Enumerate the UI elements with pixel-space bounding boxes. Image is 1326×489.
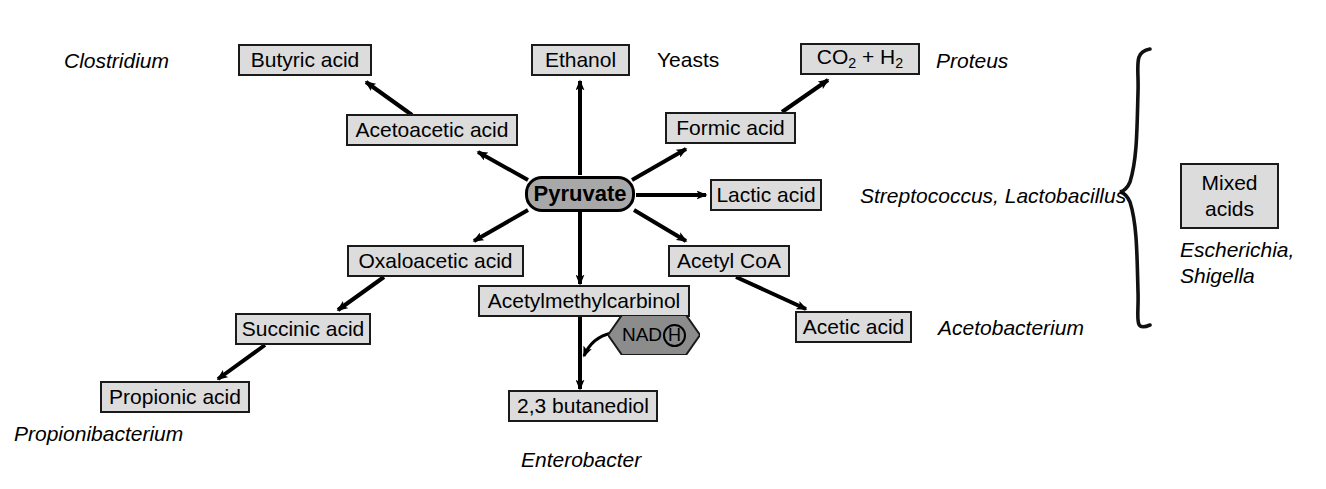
node-ethanol-label: Ethanol bbox=[545, 49, 616, 72]
node-butanediol-label: 2,3 butanediol bbox=[517, 395, 649, 418]
node-succinic-acid[interactable]: Succinic acid bbox=[235, 313, 371, 345]
node-butyric-acid[interactable]: Butyric acid bbox=[238, 44, 372, 76]
node-ethanol[interactable]: Ethanol bbox=[531, 44, 630, 76]
organism-label-yeasts: Yeasts bbox=[657, 48, 719, 72]
nad-label: NAD bbox=[622, 324, 662, 346]
node-acetyl-coa[interactable]: Acetyl CoA bbox=[668, 245, 790, 277]
node-acetoacetic-acid[interactable]: Acetoacetic acid bbox=[346, 114, 518, 146]
arrow-oxaloacetic-to-succinic bbox=[338, 277, 384, 310]
node-pyruvate-label: Pyruvate bbox=[534, 182, 627, 206]
node-formic-acid-label: Formic acid bbox=[676, 117, 785, 140]
organism-label-escherichia: Escherichia, bbox=[1180, 237, 1294, 262]
node-pyruvate[interactable]: Pyruvate bbox=[525, 176, 635, 212]
nadh-cofactor-hexagon[interactable]: NADH bbox=[608, 315, 700, 355]
node-acetic-acid-label: Acetic acid bbox=[803, 316, 905, 339]
arrow-pyruvate-to-formic bbox=[632, 149, 686, 180]
fermentation-pathway-diagram: Butyric acid Acetoacetic acid Ethanol Fo… bbox=[0, 0, 1326, 489]
node-propionic-acid-label: Propionic acid bbox=[109, 386, 241, 409]
organism-label-shigella: Shigella bbox=[1180, 263, 1255, 288]
arrow-succinic-to-propionic bbox=[218, 345, 265, 379]
organism-label-streptococcus-lactobacillus: Streptococcus, Lactobacillus bbox=[860, 183, 1126, 208]
nadh-cofactor-text: NADH bbox=[622, 324, 686, 347]
node-co2-h2-label: CO2 + H2 bbox=[817, 46, 903, 71]
node-acetylmethylcarbinol-label: Acetylmethylcarbinol bbox=[488, 290, 681, 313]
node-lactic-acid[interactable]: Lactic acid bbox=[710, 179, 822, 211]
node-succinic-acid-label: Succinic acid bbox=[242, 318, 365, 341]
node-mixed-acids[interactable]: Mixed acids bbox=[1180, 163, 1279, 229]
organism-label-enterobacter: Enterobacter bbox=[521, 447, 641, 472]
node-acetic-acid[interactable]: Acetic acid bbox=[795, 311, 912, 343]
node-propionic-acid[interactable]: Propionic acid bbox=[100, 381, 250, 413]
arrow-pyruvate-to-acetoacetic bbox=[478, 152, 528, 180]
organism-label-clostridium: Clostridium bbox=[64, 48, 169, 73]
node-acetyl-coa-label: Acetyl CoA bbox=[677, 250, 781, 273]
arrow-pyruvate-to-acetylcoa bbox=[634, 210, 686, 241]
node-co2-h2[interactable]: CO2 + H2 bbox=[800, 43, 920, 75]
node-oxaloacetic-acid-label: Oxaloacetic acid bbox=[358, 250, 512, 273]
node-mixed-acids-label-line1: Mixed bbox=[1201, 170, 1257, 196]
arrow-formic-to-co2h2 bbox=[782, 80, 828, 112]
organism-label-proteus: Proteus bbox=[936, 48, 1008, 73]
node-lactic-acid-label: Lactic acid bbox=[716, 184, 815, 207]
node-butanediol[interactable]: 2,3 butanediol bbox=[508, 390, 658, 422]
arrow-acetylcoa-to-acetic bbox=[736, 277, 806, 309]
organism-label-acetobacterium: Acetobacterium bbox=[938, 315, 1084, 340]
node-mixed-acids-label-line2: acids bbox=[1205, 196, 1254, 222]
organism-label-propionibacterium: Propionibacterium bbox=[14, 421, 183, 446]
pathway-arrows-layer bbox=[0, 0, 1326, 489]
arrow-acetoacetic-to-butyric bbox=[366, 82, 412, 115]
node-oxaloacetic-acid[interactable]: Oxaloacetic acid bbox=[347, 245, 524, 277]
node-butyric-acid-label: Butyric acid bbox=[251, 49, 360, 72]
nadh-circled-h: H bbox=[663, 324, 686, 347]
node-acetylmethylcarbinol[interactable]: Acetylmethylcarbinol bbox=[478, 285, 690, 317]
node-formic-acid[interactable]: Formic acid bbox=[665, 112, 796, 144]
arrow-pyruvate-to-oxaloacetic bbox=[474, 210, 528, 241]
node-acetoacetic-acid-label: Acetoacetic acid bbox=[356, 119, 509, 142]
